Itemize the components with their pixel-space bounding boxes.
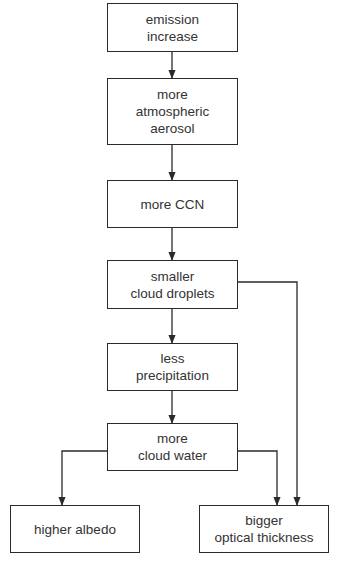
flow-node-n5: less precipitation <box>107 343 238 391</box>
node-label: smaller cloud droplets <box>130 268 214 302</box>
node-label: emission increase <box>146 11 199 45</box>
flow-node-n4: smaller cloud droplets <box>107 260 238 309</box>
flow-node-n6: more cloud water <box>107 423 238 471</box>
arrow-n6-to-n8 <box>238 451 277 505</box>
node-label: more CCN <box>141 196 205 213</box>
flow-node-n1: emission increase <box>107 3 238 52</box>
flow-node-n7: higher albedo <box>10 505 140 553</box>
flow-node-n3: more CCN <box>107 180 238 228</box>
flowchart-canvas: emission increasemore atmospheric aeroso… <box>0 0 348 574</box>
node-label: higher albedo <box>34 521 116 538</box>
arrow-n6-to-n7 <box>62 451 107 505</box>
flow-node-n2: more atmospheric aerosol <box>107 78 238 145</box>
node-label: more cloud water <box>138 430 207 464</box>
arrow-n4-to-n8 <box>238 282 297 505</box>
node-label: bigger optical thickness <box>214 512 313 546</box>
flow-node-n8: bigger optical thickness <box>199 505 329 553</box>
node-label: more atmospheric aerosol <box>136 86 210 137</box>
node-label: less precipitation <box>136 350 209 384</box>
